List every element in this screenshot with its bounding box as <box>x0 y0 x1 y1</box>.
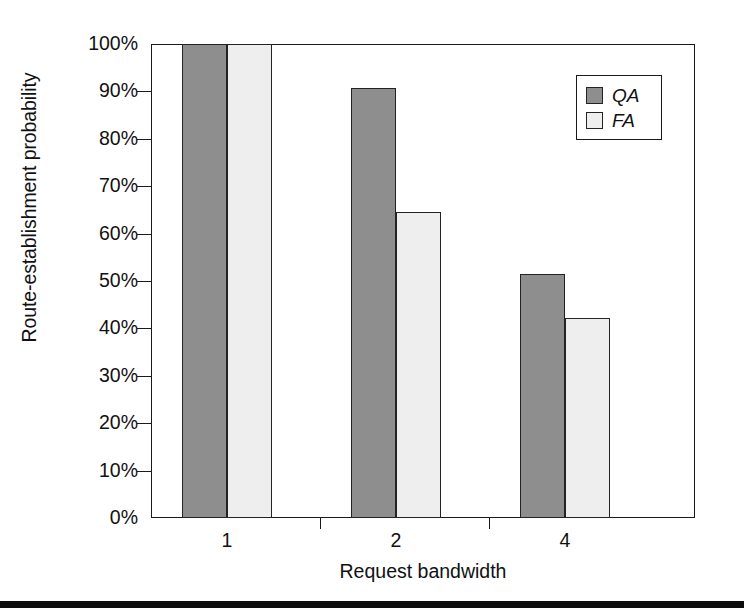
y-tick-label: 70% <box>46 176 138 196</box>
y-tick-label: 20% <box>46 413 138 433</box>
y-tick-label: 40% <box>46 319 138 339</box>
y-axis-title: Route-establishment probability <box>18 0 41 423</box>
y-tick-label: 50% <box>46 271 138 291</box>
bar-fa-1 <box>227 44 272 518</box>
y-tick-mark <box>137 139 151 140</box>
y-tick-label: 0% <box>46 508 138 528</box>
page-edge-rule <box>0 601 744 608</box>
y-tick-mark <box>137 376 151 377</box>
legend-label-qa: QA <box>612 86 639 105</box>
bar-fa-2 <box>396 212 441 518</box>
y-tick-label: 80% <box>46 129 138 149</box>
y-tick-label: 90% <box>46 82 138 102</box>
bar-qa-4 <box>520 274 565 518</box>
legend-swatch-qa-icon <box>586 87 603 104</box>
y-tick-mark <box>137 471 151 472</box>
x-tick-label-4: 4 <box>535 529 595 552</box>
y-tick-mark <box>137 91 151 92</box>
y-tick-label: 60% <box>46 224 138 244</box>
y-tick-label: 30% <box>46 366 138 386</box>
chart-legend: QA FA <box>576 75 662 140</box>
y-tick-label: 100% <box>46 34 138 54</box>
bar-qa-1 <box>182 44 227 518</box>
y-tick-mark <box>137 186 151 187</box>
bar-qa-2 <box>351 88 396 518</box>
y-tick-mark <box>137 423 151 424</box>
y-tick-label: 10% <box>46 461 138 481</box>
legend-label-fa: FA <box>612 111 635 130</box>
figure-canvas: Route-establishment probability 100%90%8… <box>0 0 744 614</box>
x-tick-mark-0 <box>320 518 321 529</box>
x-axis-title: Request bandwidth <box>151 560 695 583</box>
legend-swatch-fa-icon <box>586 112 603 129</box>
x-tick-label-2: 2 <box>366 529 426 552</box>
y-tick-mark <box>137 328 151 329</box>
y-tick-mark <box>137 281 151 282</box>
legend-item-qa: QA <box>586 83 661 108</box>
legend-item-fa: FA <box>586 108 661 133</box>
x-tick-label-1: 1 <box>197 529 257 552</box>
x-tick-mark-1 <box>489 518 490 529</box>
bar-fa-4 <box>565 318 610 519</box>
y-tick-mark <box>137 234 151 235</box>
